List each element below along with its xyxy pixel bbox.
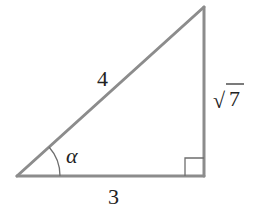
right-triangle-diagram: 4 3 α √ 7 bbox=[0, 0, 258, 212]
right-angle-marker-icon bbox=[185, 158, 204, 176]
angle-arc-icon bbox=[49, 147, 60, 176]
horizontal-leg-label: 3 bbox=[108, 184, 119, 209]
radicand-label: 7 bbox=[229, 86, 240, 111]
vertical-leg-label: √ 7 bbox=[213, 84, 244, 113]
radical-sign-icon: √ bbox=[213, 88, 226, 113]
hypotenuse-label: 4 bbox=[97, 66, 108, 91]
hypotenuse-edge bbox=[17, 7, 204, 176]
angle-alpha-label: α bbox=[66, 143, 78, 168]
